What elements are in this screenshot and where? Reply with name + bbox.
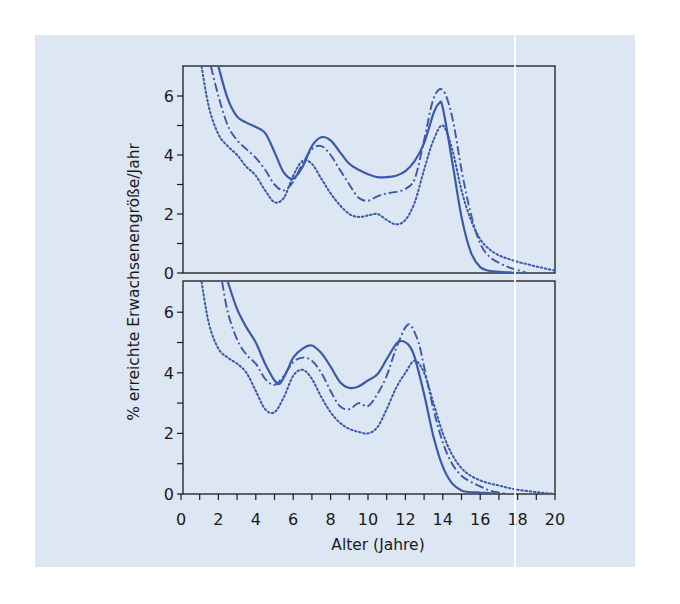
- series-dotted-line: [202, 67, 555, 271]
- y-tick-label: 4: [164, 146, 174, 165]
- y-tick-label: 2: [164, 205, 174, 224]
- x-tick-label: 4: [251, 510, 261, 529]
- x-tick-label: 8: [326, 510, 336, 529]
- growth-velocity-chart: 0246 0246 02468101214161820 Alter (Jahre…: [0, 0, 680, 604]
- plot-frame: [183, 66, 555, 273]
- series-dash-dot-line: [222, 282, 508, 494]
- x-tick-label: 20: [545, 510, 565, 529]
- chart-panel-bottom: 0246: [164, 281, 555, 504]
- y-tick-label: 6: [164, 303, 174, 322]
- series-dash-dot-line: [211, 67, 527, 274]
- y-tick-label: 2: [164, 424, 174, 443]
- series-solid-line: [218, 67, 517, 274]
- y-tick-label: 4: [164, 364, 174, 383]
- x-tick-label: 14: [433, 510, 453, 529]
- x-tick-label: 12: [395, 510, 415, 529]
- x-tick-label: 16: [470, 510, 490, 529]
- x-tick-label: 6: [288, 510, 298, 529]
- x-tick-label: 10: [358, 510, 378, 529]
- x-tick-label: 18: [507, 510, 527, 529]
- x-axis-title: Alter (Jahre): [331, 536, 424, 554]
- scan-artifact-line: [514, 35, 516, 567]
- y-tick-label: 6: [164, 87, 174, 106]
- x-tick-label: 0: [176, 510, 186, 529]
- chart-panel-top: 0246: [164, 66, 555, 283]
- x-tick-label: 2: [213, 510, 223, 529]
- series-solid-line: [228, 282, 499, 494]
- y-tick-label: 0: [164, 485, 174, 504]
- x-axis-tick-labels: 02468101214161820: [176, 494, 565, 529]
- y-axis-title: % erreichte Erwachsenengröße/Jahr: [125, 143, 143, 421]
- series-dotted-line: [202, 282, 555, 494]
- y-tick-label: 0: [164, 264, 174, 283]
